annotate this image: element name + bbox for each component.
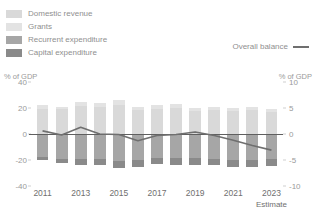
- legend-label-capital-expenditure: Capital expenditure: [28, 49, 97, 57]
- y-axis-right-tick-mark: [283, 134, 286, 135]
- overall-balance-polyline: [43, 127, 272, 150]
- chart-root: Domestic revenue Grants Recurrent expend…: [0, 0, 317, 222]
- y-axis-right-tick: 10: [289, 78, 298, 87]
- legend: Domestic revenue Grants Recurrent expend…: [6, 8, 107, 60]
- y-axis-right-tick: 0: [289, 130, 293, 139]
- legend-item-grants: Grants: [6, 21, 107, 32]
- legend-label-domestic-revenue: Domestic revenue: [28, 10, 92, 18]
- overall-balance-line: [33, 82, 281, 186]
- x-axis-tick-label: 2017: [148, 188, 167, 198]
- x-axis-tick-label: 2011: [33, 188, 51, 198]
- plot-area: 40200-20-40 1050-5-10: [33, 82, 281, 186]
- legend-swatch-recurrent-expenditure-icon: [6, 36, 22, 44]
- y-axis-left-tick: 40: [18, 78, 27, 87]
- y-axis-right-tick: -10: [289, 182, 301, 191]
- y-axis-right-tick-mark: [283, 160, 286, 161]
- legend-swatch-grants-icon: [6, 23, 22, 31]
- x-axis-labels: 2011201320152017201920212023Estimate: [33, 188, 281, 218]
- legend-swatch-capital-expenditure-icon: [6, 49, 22, 57]
- y-axis-right-tick-mark: [283, 108, 286, 109]
- y-axis-left-tick: -20: [15, 156, 27, 165]
- legend-swatch-domestic-revenue-icon: [6, 10, 22, 18]
- y-axis-left-tick: 20: [18, 104, 27, 113]
- x-axis-tick-label: 2015: [109, 188, 128, 198]
- legend-label-grants: Grants: [28, 23, 52, 31]
- legend-item-domestic-revenue: Domestic revenue: [6, 8, 107, 19]
- legend-item-overall-balance: Overall balance: [232, 43, 309, 51]
- y-axis-left-tick-mark: [28, 82, 31, 83]
- y-axis-right-tick-mark: [283, 186, 286, 187]
- legend-label-recurrent-expenditure: Recurrent expenditure: [28, 36, 107, 44]
- x-axis-tick-label: 2019: [186, 188, 205, 198]
- y-axis-left-tick-mark: [28, 108, 31, 109]
- legend-item-capital-expenditure: Capital expenditure: [6, 47, 107, 58]
- x-axis-tick-label: 2023: [262, 188, 281, 198]
- x-axis-tick-label: 2021: [224, 188, 243, 198]
- y-axis-right-tick-mark: [283, 82, 286, 83]
- legend-line-swatch-icon: [293, 46, 309, 48]
- y-axis-left-tick-mark: [28, 160, 31, 161]
- legend-item-recurrent-expenditure: Recurrent expenditure: [6, 34, 107, 45]
- y-axis-left-tick: -40: [15, 182, 27, 191]
- x-axis-estimate-note: Estimate: [256, 200, 287, 209]
- y-axis-left-tick: 0: [23, 130, 27, 139]
- y-axis-left-tick-mark: [28, 186, 31, 187]
- y-axis-right-tick: 5: [289, 104, 293, 113]
- y-axis-right-tick: -5: [289, 156, 296, 165]
- legend-label-overall-balance: Overall balance: [232, 43, 288, 51]
- x-axis-tick-label: 2013: [71, 188, 90, 198]
